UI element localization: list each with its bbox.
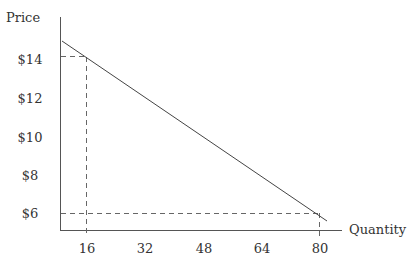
x-tick-16: 16 xyxy=(79,241,96,256)
y-tick-8: $8 xyxy=(22,168,39,183)
y-tick-6: $6 xyxy=(22,206,39,221)
y-tick-12: $12 xyxy=(18,91,43,106)
demand-line xyxy=(62,41,327,221)
y-tick-14: $14 xyxy=(18,52,43,67)
x-tick-64: 64 xyxy=(254,241,271,256)
x-tick-80: 80 xyxy=(312,241,329,256)
x-tick-48: 48 xyxy=(196,241,213,256)
x-tick-32: 32 xyxy=(137,241,154,256)
x-axis-label: Quantity xyxy=(349,222,406,237)
y-tick-10: $10 xyxy=(18,130,43,145)
demand-chart: Price Quantity $14 $12 $10 $8 $6 16 32 4… xyxy=(0,0,410,266)
y-axis-label: Price xyxy=(6,10,40,25)
